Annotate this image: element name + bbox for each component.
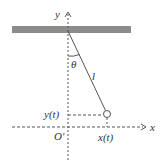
origin-label: O': [54, 130, 65, 142]
pendulum-string: [68, 31, 106, 111]
y-axis-label: y: [54, 8, 60, 20]
length-label: l: [92, 70, 95, 82]
angle-arc: [68, 55, 80, 57]
pendulum-diagram: y x O' l θ y(t) x(t): [0, 0, 168, 162]
x-axis-label: x: [149, 121, 155, 133]
x-of-t-label: x(t): [97, 131, 114, 144]
angle-label: θ: [71, 58, 77, 70]
y-of-t-label: y(t): [43, 108, 60, 121]
x-axis-arrow-icon: [141, 124, 146, 130]
ceiling-bar: [12, 26, 131, 33]
pendulum-bob: [104, 111, 111, 118]
